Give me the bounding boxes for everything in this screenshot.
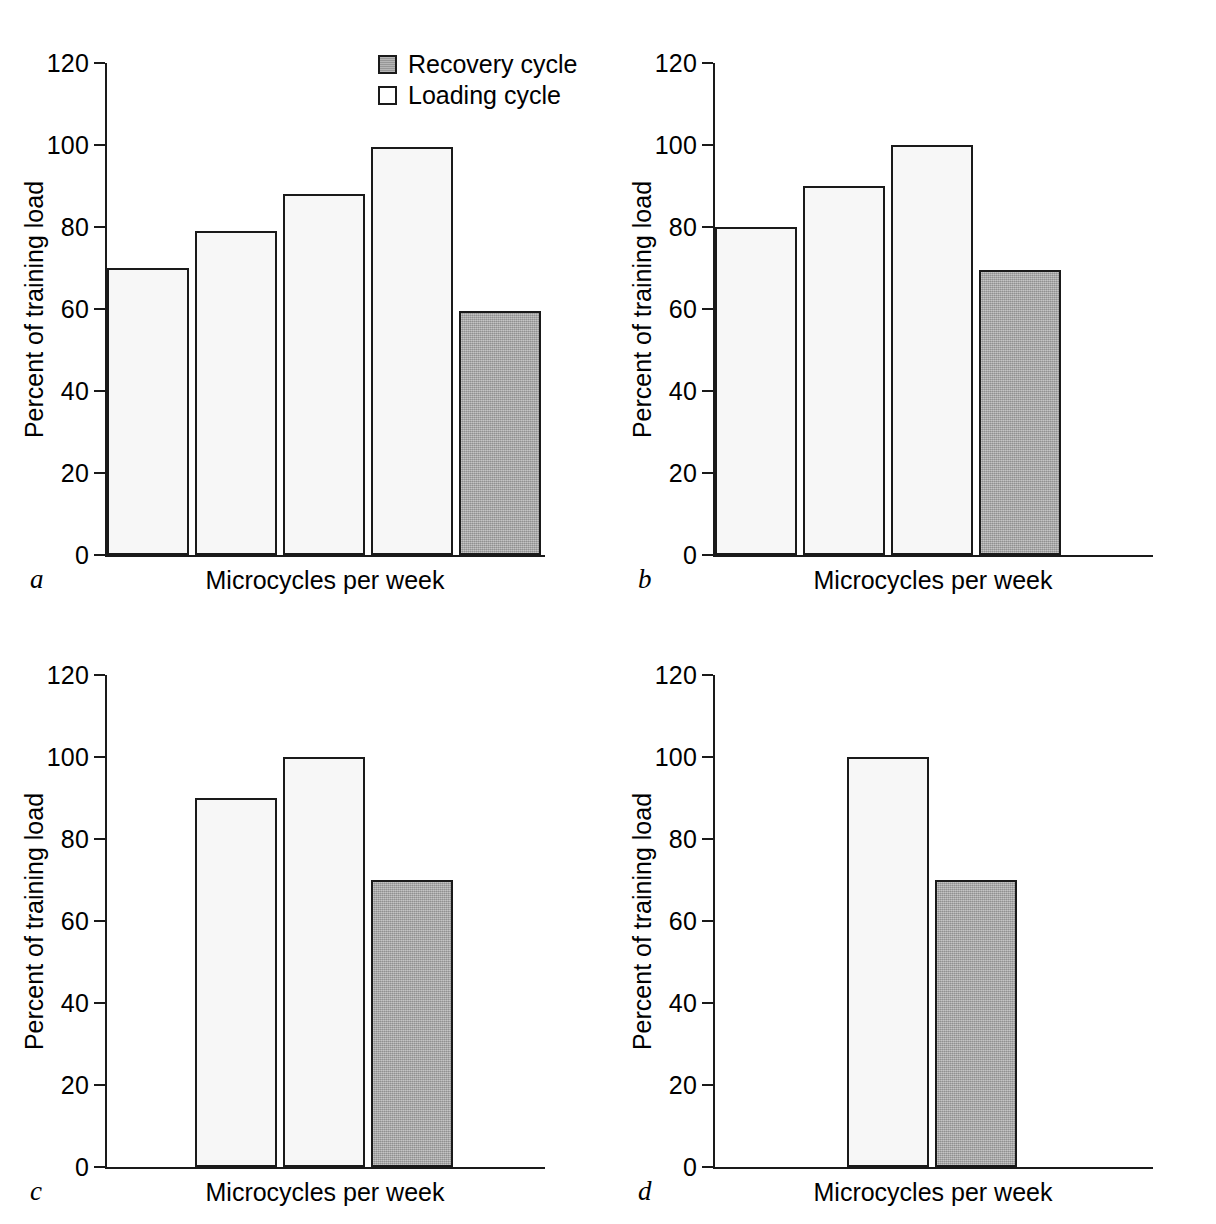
y-tick-label: 40 xyxy=(669,991,697,1016)
bar-group-b xyxy=(715,63,1153,555)
y-tick-mark xyxy=(702,920,713,922)
x-axis-label-c: Microcycles per week xyxy=(105,1177,545,1207)
y-tick-mark xyxy=(702,308,713,310)
y-tick-mark xyxy=(702,1002,713,1004)
y-tick-mark xyxy=(94,472,105,474)
y-tick-label: 0 xyxy=(683,1155,697,1180)
bar-d-2-recovery xyxy=(935,880,1017,1167)
y-tick-mark xyxy=(702,390,713,392)
x-axis-label-a: Microcycles per week xyxy=(105,565,545,595)
panel-letter-b: b xyxy=(638,563,652,595)
y-tick-mark xyxy=(94,838,105,840)
y-tick-label: 100 xyxy=(655,745,697,770)
panel-letter-c: c xyxy=(30,1175,42,1207)
y-tick-label: 80 xyxy=(669,215,697,240)
y-tick-mark xyxy=(94,308,105,310)
y-tick-label: 0 xyxy=(683,543,697,568)
legend-label-loading: Loading cycle xyxy=(408,83,561,108)
y-tick-label: 100 xyxy=(47,133,89,158)
bar-group-a xyxy=(107,63,545,555)
legend-a: Recovery cycle Loading cycle xyxy=(378,52,578,108)
x-axis-line-a xyxy=(105,555,545,557)
bar-c-3-recovery xyxy=(371,880,453,1167)
y-tick-mark xyxy=(94,1084,105,1086)
bar-a-2-loading xyxy=(195,231,277,555)
y-tick-mark xyxy=(702,838,713,840)
bar-a-3-loading xyxy=(283,194,365,555)
bar-b-1-loading xyxy=(715,227,797,555)
y-tick-mark xyxy=(94,62,105,64)
chart-panel-c: Percent of training load 020406080100120… xyxy=(0,612,608,1224)
y-tick-label: 40 xyxy=(669,379,697,404)
legend-swatch-recovery-icon xyxy=(378,55,397,74)
bar-b-4-recovery xyxy=(979,270,1061,555)
y-tick-mark xyxy=(94,756,105,758)
y-tick-label: 0 xyxy=(75,543,89,568)
figure-panel-grid: Percent of training load 020406080100120… xyxy=(0,0,1216,1224)
y-tick-mark xyxy=(702,674,713,676)
panel-letter-a: a xyxy=(30,563,44,595)
y-tick-mark xyxy=(94,390,105,392)
y-tick-label: 40 xyxy=(61,379,89,404)
x-axis-line-c xyxy=(105,1167,545,1169)
legend-item-loading: Loading cycle xyxy=(378,83,578,108)
x-axis-label-b: Microcycles per week xyxy=(713,565,1153,595)
bar-b-3-loading xyxy=(891,145,973,555)
legend-item-recovery: Recovery cycle xyxy=(378,52,578,77)
y-tick-mark xyxy=(702,1166,713,1168)
legend-swatch-loading-icon xyxy=(378,86,397,105)
x-axis-line-b xyxy=(713,555,1153,557)
bar-c-1-loading xyxy=(195,798,277,1167)
y-tick-label: 120 xyxy=(655,663,697,688)
y-tick-label: 20 xyxy=(61,461,89,486)
y-tick-mark xyxy=(94,1002,105,1004)
chart-panel-a: Percent of training load 020406080100120… xyxy=(0,0,608,612)
y-tick-label: 100 xyxy=(655,133,697,158)
bar-group-d xyxy=(715,675,1153,1167)
y-tick-label: 20 xyxy=(669,1073,697,1098)
y-tick-mark xyxy=(702,144,713,146)
y-tick-label: 120 xyxy=(655,51,697,76)
y-tick-mark xyxy=(94,554,105,556)
y-tick-label: 100 xyxy=(47,745,89,770)
bar-a-5-recovery xyxy=(459,311,541,555)
bar-group-c xyxy=(107,675,545,1167)
x-axis-line-d xyxy=(713,1167,1153,1169)
y-tick-label: 60 xyxy=(669,909,697,934)
chart-panel-b: Percent of training load 020406080100120… xyxy=(608,0,1216,612)
bar-b-2-loading xyxy=(803,186,885,555)
y-tick-label: 0 xyxy=(75,1155,89,1180)
y-tick-label: 80 xyxy=(61,827,89,852)
y-tick-label: 120 xyxy=(47,663,89,688)
y-tick-label: 20 xyxy=(61,1073,89,1098)
bar-d-1-loading xyxy=(847,757,929,1167)
chart-panel-d: Percent of training load 020406080100120… xyxy=(608,612,1216,1224)
bar-c-2-loading xyxy=(283,757,365,1167)
y-tick-mark xyxy=(94,144,105,146)
plot-area-d: 020406080100120 xyxy=(713,675,1153,1167)
y-tick-mark xyxy=(702,554,713,556)
y-tick-mark xyxy=(94,226,105,228)
y-tick-mark xyxy=(702,226,713,228)
plot-area-b: 020406080100120 xyxy=(713,63,1153,555)
y-tick-label: 60 xyxy=(61,909,89,934)
y-tick-label: 40 xyxy=(61,991,89,1016)
y-tick-mark xyxy=(702,756,713,758)
y-tick-label: 20 xyxy=(669,461,697,486)
panel-letter-d: d xyxy=(638,1175,652,1207)
y-tick-mark xyxy=(702,1084,713,1086)
bar-a-1-loading xyxy=(107,268,189,555)
y-tick-label: 120 xyxy=(47,51,89,76)
y-tick-mark xyxy=(94,674,105,676)
plot-area-a: 020406080100120 xyxy=(105,63,545,555)
y-tick-mark xyxy=(94,1166,105,1168)
plot-area-c: 020406080100120 xyxy=(105,675,545,1167)
y-tick-label: 60 xyxy=(61,297,89,322)
y-tick-label: 60 xyxy=(669,297,697,322)
y-tick-mark xyxy=(702,62,713,64)
y-tick-mark xyxy=(702,472,713,474)
y-tick-label: 80 xyxy=(61,215,89,240)
x-axis-label-d: Microcycles per week xyxy=(713,1177,1153,1207)
y-tick-label: 80 xyxy=(669,827,697,852)
bar-a-4-loading xyxy=(371,147,453,555)
